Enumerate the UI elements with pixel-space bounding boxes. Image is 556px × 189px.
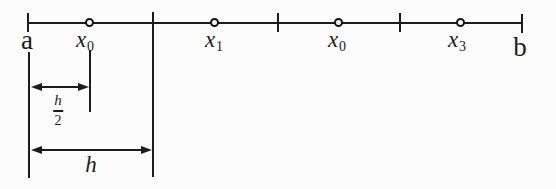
label-x2-printed-x0: x0 (328, 28, 346, 54)
midpoint-circle-1 (85, 18, 94, 27)
label-x3-base: x (448, 27, 458, 52)
label-x2-sub: 0 (339, 39, 346, 54)
midpoint-circle-3 (334, 18, 343, 27)
tick-boundary-1-extended-line (152, 12, 154, 177)
arrow-right-head-icon (78, 83, 89, 91)
label-a: a (21, 27, 33, 54)
label-x3: x3 (448, 28, 466, 54)
tick-right-end (521, 14, 523, 33)
midpoint-circle-4 (456, 18, 465, 27)
arrow-right-head-icon (141, 146, 152, 154)
label-x0-base: x (76, 27, 86, 52)
dimension-arrow-h-half (31, 82, 89, 92)
arrow-shaft (42, 86, 78, 88)
label-x2-base: x (328, 27, 338, 52)
label-x3-sub: 3 (459, 39, 466, 54)
fraction-denominator: 2 (55, 112, 62, 128)
label-b: b (513, 34, 527, 61)
axis-line (28, 22, 522, 24)
arrow-shaft (42, 149, 141, 151)
label-x1: x1 (205, 28, 223, 54)
fraction-numerator: h (53, 93, 63, 110)
label-x0: x0 (76, 28, 94, 54)
label-x1-base: x (205, 27, 215, 52)
tick-boundary-2 (277, 13, 279, 32)
midpoint-circle-2 (210, 18, 219, 27)
guide-line-x0 (89, 50, 91, 112)
number-line-figure: a b x0 x1 x0 x3 h 2 h (0, 0, 556, 189)
arrow-left-head-icon (31, 83, 42, 91)
label-h-half: h 2 (53, 93, 63, 128)
label-h: h (85, 153, 97, 176)
arrow-left-head-icon (31, 146, 42, 154)
tick-boundary-3 (399, 13, 401, 32)
guide-line-a (28, 52, 30, 178)
label-x1-sub: 1 (216, 39, 223, 54)
